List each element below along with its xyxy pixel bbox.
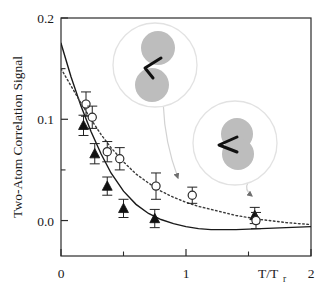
inset-atom [135,68,169,102]
marker-circle [88,113,96,121]
y-tick-label: 0.2 [37,11,54,26]
y-tick-label: 0.1 [37,112,54,127]
marker-circle [103,148,111,156]
y-axis-label: Two-Atom Correlation Signal [10,56,25,218]
marker-circle [116,155,124,163]
y-tick-label: 0.0 [37,214,54,229]
x-tick-label: 0 [58,266,65,281]
marker-circle [82,100,90,108]
chart-figure: 012 0.00.10.2 Two-Atom Correlation Signa… [0,0,330,296]
svg-text:T/T: T/T [258,266,279,281]
marker-circle [188,191,196,199]
marker-circle [252,216,260,224]
two-atom-correlation-plot: 012 0.00.10.2 Two-Atom Correlation Signa… [0,0,330,296]
marker-circle [152,182,160,190]
x-tick-label: 1 [183,266,190,281]
x-tick-label: 2 [308,266,315,281]
